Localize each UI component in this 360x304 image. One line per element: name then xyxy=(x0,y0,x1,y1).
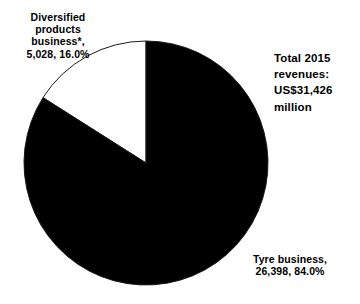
total-revenues-line-4: million xyxy=(274,99,360,115)
slice-label-diversified-line-3: business*, xyxy=(6,35,110,47)
slice-label-tyre-line-1: Tyre business, xyxy=(228,253,352,265)
pie-chart-figure: Diversified products business*, 5,028, 1… xyxy=(0,0,360,304)
total-revenues-line-3: US$31,426 xyxy=(274,82,360,98)
slice-label-tyre-line-2: 26,398, 84.0% xyxy=(228,265,352,277)
slice-label-diversified: Diversified products business*, 5,028, 1… xyxy=(6,11,110,60)
total-revenues-annotation: Total 2015 revenues: US$31,426 million xyxy=(274,50,360,115)
slice-label-diversified-line-1: Diversified xyxy=(6,11,110,23)
total-revenues-line-1: Total 2015 xyxy=(274,50,360,66)
slice-label-tyre: Tyre business, 26,398, 84.0% xyxy=(228,253,352,277)
slice-label-diversified-line-4: 5,028, 16.0% xyxy=(6,48,110,60)
total-revenues-line-2: revenues: xyxy=(274,66,360,82)
slice-label-diversified-line-2: products xyxy=(6,23,110,35)
